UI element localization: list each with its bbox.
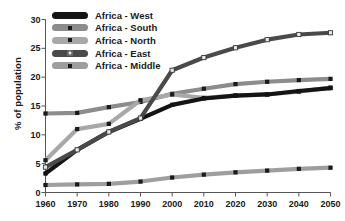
x-axis-tick-label: 2020 [219,199,253,209]
series-line [46,88,331,161]
y-axis-tick-label: 10 [19,130,41,140]
data-point-marker [43,111,47,115]
x-axis-tick-label: 2010 [187,199,221,209]
y-axis-tick-label: 25 [19,43,41,53]
data-point-marker [75,182,79,186]
data-point-marker [328,31,332,35]
data-point-marker [138,116,142,120]
x-axis-tick-label: 2030 [250,199,284,209]
data-point-marker [233,94,237,98]
x-axis-tick-label: 1990 [124,199,158,209]
y-axis-tick-label: 20 [19,72,41,82]
data-point-marker [233,82,237,86]
data-point-marker [297,32,301,36]
y-axis-tick-label: 15 [19,101,41,111]
data-point-marker [75,127,79,131]
legend-marker [68,51,73,56]
data-point-marker [43,158,47,162]
data-point-marker [328,86,332,90]
data-point-marker [107,182,111,186]
series-africa-middle [43,166,332,187]
legend-color-swatch [52,24,88,31]
data-point-marker [233,46,237,50]
chart-legend: Africa - WestAfrica - SouthAfrica - Nort… [52,9,160,72]
data-point-marker [328,77,332,81]
legend-marker [68,26,72,30]
data-point-marker [43,165,47,169]
data-point-marker [328,166,332,170]
data-point-marker [75,148,79,152]
x-axis-tick-label: 2050 [314,199,345,209]
legend-color-swatch [52,37,88,44]
data-point-marker [202,173,206,177]
data-point-marker [170,92,174,96]
data-point-marker [75,111,79,115]
data-point-marker [297,89,301,93]
x-axis-tick-label: 1970 [60,199,94,209]
data-point-marker [107,130,111,134]
data-point-marker [202,87,206,91]
data-point-marker [138,98,142,102]
data-point-marker [170,175,174,179]
data-point-marker [265,38,269,42]
data-point-marker [265,92,269,96]
y-axis-tick-label: 0 [19,188,41,198]
data-point-marker [107,105,111,109]
legend-marker [68,64,72,68]
data-point-marker [297,78,301,82]
data-point-marker [170,103,174,107]
data-point-marker [107,122,111,126]
data-point-marker [265,80,269,84]
y-axis-tick-label: 30 [19,15,41,25]
data-point-marker [170,68,174,72]
x-axis-tick-label: 1980 [92,199,126,209]
legend-item: Africa - South [52,22,160,35]
data-point-marker [233,170,237,174]
legend-color-swatch [52,62,88,69]
data-point-marker [202,96,206,100]
x-axis-tick-label: 2040 [282,199,316,209]
legend-item: Africa - East [52,47,160,60]
data-point-marker [43,183,47,187]
legend-item-label: Africa - North [95,35,156,46]
data-point-marker [43,171,47,175]
legend-item: Africa - North [52,34,160,47]
legend-item-label: Africa - East [95,48,150,59]
data-point-marker [138,179,142,183]
y-axis-tick-label: 5 [19,159,41,169]
data-point-marker [202,55,206,59]
x-axis-tick-label: 1960 [29,199,63,209]
series-line [46,168,331,185]
x-axis-tick-label: 2000 [155,199,189,209]
legend-marker [68,13,72,17]
data-point-marker [265,168,269,172]
legend-item: Africa - Middle [52,59,160,72]
legend-item-label: Africa - South [95,22,157,33]
legend-item-label: Africa - West [95,10,153,21]
legend-item-label: Africa - Middle [95,60,160,71]
series-line [46,88,331,173]
series-africa-west [43,86,332,176]
legend-color-swatch [52,50,88,57]
legend-color-swatch [52,12,88,19]
legend-marker [68,38,72,42]
legend-item: Africa - West [52,9,160,22]
series-africa-north [43,85,332,162]
data-point-marker [297,167,301,171]
